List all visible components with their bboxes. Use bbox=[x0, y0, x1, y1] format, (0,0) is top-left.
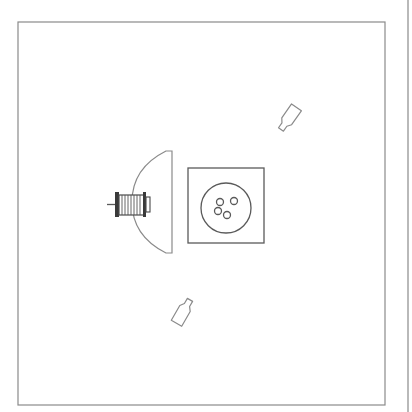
bottle-upper-right bbox=[276, 104, 301, 133]
ball bbox=[217, 199, 224, 206]
bottle-lower-left bbox=[171, 297, 195, 326]
bowl bbox=[201, 183, 251, 233]
ball bbox=[231, 198, 238, 205]
scene-canvas bbox=[0, 0, 412, 412]
motor-spool bbox=[107, 192, 150, 217]
ball bbox=[215, 208, 222, 215]
ball bbox=[224, 212, 231, 219]
tray bbox=[188, 168, 264, 243]
motor-end-cap bbox=[146, 197, 150, 212]
motor-ribs bbox=[122, 195, 140, 215]
